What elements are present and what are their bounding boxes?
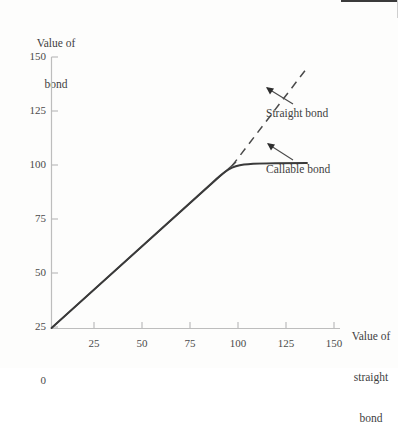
x-axis-title-line-2: straight — [344, 371, 398, 385]
x-axis-title-line-3: bond — [344, 412, 398, 426]
annotation-arrow-straight-bond — [266, 87, 293, 104]
y-tick-label-0: 0 — [12, 374, 46, 387]
annotation-arrow-callable-bond — [267, 143, 293, 160]
series-straight-bond-dashed — [232, 68, 307, 166]
y-axis-ticks — [52, 57, 59, 327]
series-callable-bond — [52, 163, 308, 328]
x-axis-ticks — [94, 322, 334, 329]
